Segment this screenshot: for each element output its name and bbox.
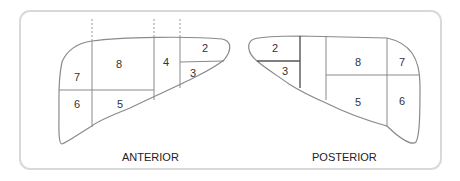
anterior-seg-5: 5	[117, 98, 123, 110]
divider-anterior-h2	[180, 61, 224, 62]
posterior-seg-7: 7	[399, 56, 405, 68]
anterior-seg-8: 8	[116, 58, 122, 70]
anterior-label: ANTERIOR	[122, 151, 179, 163]
posterior-seg-3: 3	[282, 65, 288, 77]
liver-diagram: 2 3 4 5 6 7 8 ANTERIOR 2 3 5 6 7 8 POSTE…	[0, 0, 460, 181]
posterior-seg-2: 2	[272, 42, 278, 54]
posterior-seg-8: 8	[355, 56, 361, 68]
anterior-seg-6: 6	[74, 98, 80, 110]
posterior-label: POSTERIOR	[312, 151, 377, 163]
posterior-seg-6: 6	[399, 95, 405, 107]
anterior-seg-3: 3	[190, 67, 196, 79]
anterior-seg-7: 7	[74, 71, 80, 83]
anterior-seg-2: 2	[202, 42, 208, 54]
posterior-seg-5: 5	[355, 96, 361, 108]
anterior-seg-4: 4	[163, 56, 169, 68]
anterior-view: 2 3 4 5 6 7 8 ANTERIOR	[59, 19, 230, 163]
posterior-view: 2 3 5 6 7 8 POSTERIOR	[249, 36, 420, 163]
